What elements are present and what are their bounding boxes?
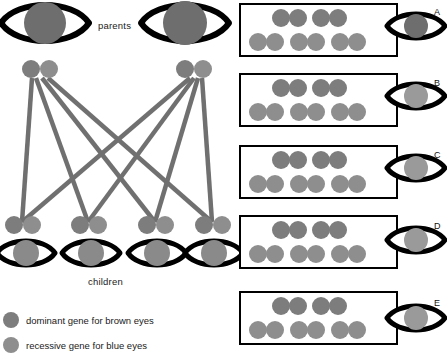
option-D[interactable]	[240, 216, 445, 268]
inheritance-lines	[22, 78, 212, 222]
gene-dot-dominant-icon	[3, 312, 19, 328]
child-2-eye	[62, 240, 120, 266]
children-label: children	[88, 277, 123, 287]
gene-dot-recessive-icon	[3, 337, 19, 353]
diagram-canvas	[0, 0, 447, 363]
option-E[interactable]	[240, 292, 445, 344]
parents-label: parents	[98, 21, 131, 31]
parent-left-eye	[1, 2, 89, 44]
genetics-diagram: parents children dominant gene for brown…	[0, 0, 447, 363]
parent-right-eye	[141, 1, 229, 45]
option-B[interactable]	[240, 74, 445, 126]
option-A[interactable]	[240, 4, 445, 56]
option-D-eye	[387, 228, 445, 252]
option-A-letter: A	[434, 8, 440, 17]
option-C[interactable]	[240, 146, 445, 198]
parent-right-genes	[176, 60, 212, 78]
option-E-eye	[387, 306, 445, 330]
legend-recessive-label: recessive gene for blue eyes	[26, 340, 147, 351]
child-3-eye	[128, 240, 186, 266]
child-1-eye	[0, 240, 55, 266]
option-B-letter: B	[434, 79, 440, 88]
option-D-letter: D	[434, 222, 441, 231]
option-A-eye	[387, 14, 445, 38]
option-E-letter: E	[434, 299, 440, 308]
parent-left-genes	[22, 60, 58, 78]
legend-dominant-label: dominant gene for brown eyes	[26, 315, 154, 326]
option-C-letter: C	[434, 151, 441, 160]
child-4-eye	[185, 240, 243, 266]
